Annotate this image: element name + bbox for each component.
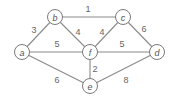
node-label-a: a [19, 48, 24, 58]
edge-weight-b-f: 4 [75, 27, 80, 37]
node-e: e [83, 79, 98, 94]
node-d: d [150, 45, 165, 60]
graph-diagram: 1344655268 abcdef [0, 0, 175, 100]
node-b: b [48, 10, 63, 25]
edge-weight-f-e: 2 [92, 64, 97, 74]
edge-weight-c-d: 6 [141, 24, 146, 34]
edge-weight-a-e: 6 [54, 75, 59, 85]
edge-weight-a-f: 5 [54, 39, 59, 49]
node-label-e: e [87, 82, 92, 92]
edge-weight-a-b: 3 [31, 25, 36, 35]
edge-weight-b-c: 1 [85, 4, 90, 14]
edge-weight-f-d: 5 [119, 39, 124, 49]
node-f: f [83, 45, 98, 60]
node-c: c [116, 10, 131, 25]
edge-weight-e-d: 8 [123, 75, 128, 85]
node-label-c: c [121, 13, 126, 23]
edge-weight-c-f: 4 [99, 27, 104, 37]
node-a: a [15, 45, 30, 60]
node-label-b: b [52, 13, 57, 23]
